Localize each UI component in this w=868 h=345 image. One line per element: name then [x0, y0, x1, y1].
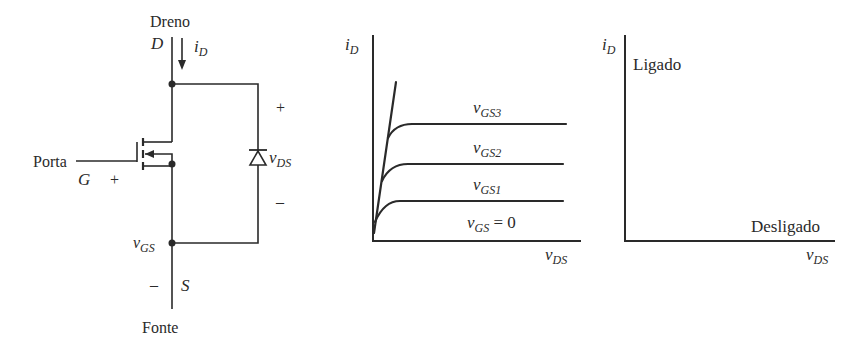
label-vgs2: vGS2	[473, 138, 501, 160]
vds-plus-sign: +	[276, 99, 285, 116]
vgs-label: vGS	[133, 234, 155, 255]
source-label: Fonte	[142, 319, 178, 336]
drain-current-arrow-icon	[178, 38, 186, 70]
diode-loop-wire	[172, 84, 258, 243]
gate-plus-sign: +	[110, 171, 119, 188]
y-axis-label: iD	[345, 35, 359, 57]
x-axis-label: vDS	[545, 245, 567, 267]
source-minus-sign: –	[149, 276, 159, 293]
mosfet-circuit: Dreno D iD vDS + –	[33, 13, 291, 336]
mosfet-icon	[76, 138, 172, 170]
body-diode-icon	[249, 150, 267, 165]
vds-label: vDS	[269, 148, 291, 170]
off-state-label: Desligado	[751, 217, 820, 236]
on-state-label: Ligado	[633, 55, 681, 74]
gate-label: Porta	[33, 153, 67, 170]
x-axis-label: vDS	[806, 245, 828, 267]
mosfet-figure: Dreno D iD vDS + –	[0, 0, 868, 345]
label-vgs0: vGS = 0	[467, 213, 516, 235]
vds-minus-sign: –	[275, 193, 285, 210]
ohmic-region-line	[374, 82, 396, 233]
iv-characteristics-chart: iD vDS vGS3 vGS2 vGS1 vGS = 0	[345, 35, 581, 267]
label-vgs1: vGS1	[473, 175, 501, 197]
gate-terminal-label: G	[78, 170, 90, 189]
idealized-characteristics-chart: iD vDS Ligado Desligado	[602, 35, 835, 267]
drain-terminal-label: D	[150, 34, 164, 53]
drain-label: Dreno	[150, 13, 190, 30]
y-axis-label: iD	[602, 35, 616, 57]
label-vgs3: vGS3	[473, 98, 501, 120]
source-terminal-label: S	[181, 276, 190, 295]
drain-current-label: iD	[194, 37, 208, 59]
curve-vgs3	[388, 124, 566, 138]
